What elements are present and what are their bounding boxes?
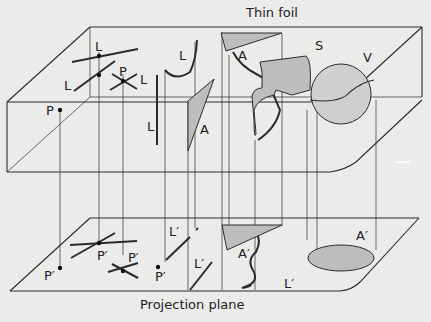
label-V: V [363, 50, 372, 65]
label-L: L [147, 119, 155, 134]
label-A-prime: A′ [238, 246, 250, 261]
volume-V-sphere [311, 64, 371, 124]
area-A-prime-triangle [222, 225, 282, 250]
label-L: L [140, 72, 148, 87]
label-P-prime: P′ [44, 268, 55, 283]
projection-diagram: Thin foil Projection plane L L P L L L A… [0, 0, 431, 322]
area-A-prime-ellipse [308, 245, 374, 271]
label-L-prime: L′ [284, 276, 294, 291]
foil-objects [72, 40, 280, 145]
label-A: A [238, 48, 247, 63]
label-S: S [315, 38, 323, 53]
area-A-top [221, 33, 282, 51]
label-A: A [200, 122, 209, 137]
label-P: P [46, 103, 54, 118]
label-P-prime: P′ [155, 269, 166, 284]
label-L-prime: L′ [194, 256, 204, 271]
label-L-prime: L′ [169, 224, 179, 239]
label-L: L [64, 78, 72, 93]
area-A-tilted [188, 79, 214, 151]
title-projection-plane: Projection plane [140, 297, 244, 312]
label-P-prime: P′ [97, 248, 108, 263]
title-thin-foil: Thin foil [245, 5, 298, 20]
label-P: P [119, 64, 127, 79]
surface-S [252, 56, 311, 135]
label-L: L [179, 48, 187, 63]
label-A-prime: A′ [356, 228, 368, 243]
point-P-side [58, 108, 62, 112]
label-P-prime: P′ [128, 250, 139, 265]
label-L: L [95, 39, 103, 54]
